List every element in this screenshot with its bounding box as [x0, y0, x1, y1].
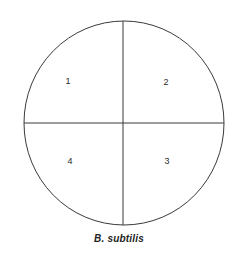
figure-caption: B. subtilis — [0, 233, 238, 244]
quadrant-label-2: 2 — [159, 78, 173, 87]
quadrant-label-4: 4 — [63, 157, 77, 166]
petri-dish-drawing — [0, 0, 238, 254]
quadrant-label-3: 3 — [160, 157, 174, 166]
petri-dish-figure: 1 2 3 4 B. subtilis — [0, 0, 238, 254]
quadrant-label-1: 1 — [61, 77, 75, 86]
